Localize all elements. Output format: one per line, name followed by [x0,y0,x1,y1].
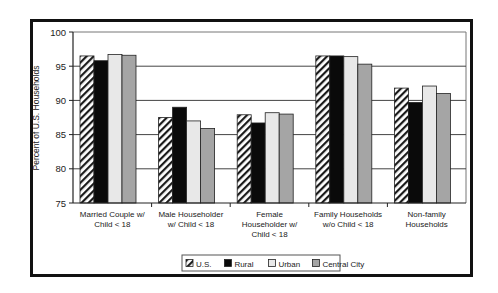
x-category-label: Family Householdsw/o Child < 18 [314,210,382,229]
legend-swatch-u-s- [186,260,193,267]
x-category-label-line: Child < 18 [94,220,131,229]
bar-central-city-2 [279,114,293,203]
bar-urban-4 [422,86,436,203]
x-category-label-line: Male Householder [158,210,223,219]
bar-u-s--4 [394,88,408,203]
bar-central-city-3 [358,64,372,203]
x-category-label-line: w/o Child < 18 [322,220,374,229]
legend-label: Urban [278,260,300,269]
bar-urban-1 [187,121,201,203]
x-category-label-line: Family Households [314,210,382,219]
bar-u-s--1 [159,118,173,204]
bar-rural-0 [94,61,108,203]
x-category-label-line: Child < 18 [251,230,288,239]
x-category-label-line: Non-family [408,210,446,219]
legend-label: U.S. [196,260,212,269]
bar-u-s--3 [316,56,330,203]
x-category-label: Non-familyHouseholds [406,210,448,229]
bars [80,55,450,203]
x-category-labels: Married Couple w/Child < 18Male Househol… [80,210,448,239]
bar-central-city-0 [122,55,136,203]
bar-urban-3 [344,57,358,203]
legend: U.S.RuralUrbanCentral City [182,255,364,271]
y-tick-label: 75 [55,198,66,209]
legend-swatch-central-city [312,260,319,267]
bar-urban-2 [265,113,279,203]
x-category-label-line: Householder w/ [242,220,298,229]
x-category-label-line: w/ Child < 18 [167,220,215,229]
bar-central-city-4 [436,94,450,203]
bar-urban-0 [108,55,122,203]
x-category-label-line: Households [406,220,448,229]
y-tick-label: 100 [50,27,66,38]
legend-label: Central City [322,260,364,269]
y-tick-label: 95 [55,61,66,72]
x-category-label: FemaleHouseholder w/Child < 18 [242,210,298,239]
x-category-label-line: Married Couple w/ [80,210,146,219]
x-category-label: Married Couple w/Child < 18 [80,210,146,229]
y-tick-label: 80 [55,163,66,174]
x-category-label: Male Householderw/ Child < 18 [158,210,223,229]
bar-rural-3 [330,56,344,203]
legend-swatch-rural [224,260,231,267]
bar-chart: 7580859095100 Married Couple w/Child < 1… [0,0,498,293]
bar-rural-2 [251,123,265,203]
y-tick-label: 85 [55,129,66,140]
bar-rural-1 [173,107,187,203]
legend-swatch-urban [268,260,275,267]
bar-central-city-1 [201,128,215,203]
x-category-label-line: Female [256,210,283,219]
legend-label: Rural [234,260,253,269]
bar-u-s--2 [237,115,251,203]
bar-rural-4 [408,102,422,203]
bar-u-s--0 [80,56,94,203]
y-tick-labels: 7580859095100 [50,27,66,209]
y-axis-title: Percent of U.S. Households [31,66,41,171]
y-tick-label: 90 [55,95,66,106]
